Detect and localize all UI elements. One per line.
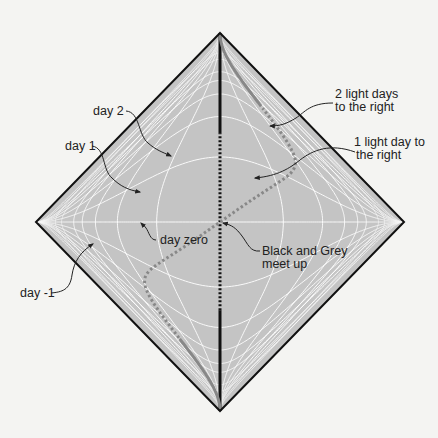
diagram-canvas: day 2 day 1 day zero day -1 2 light days…	[0, 0, 438, 438]
label-one-light-day-2: the right	[356, 148, 402, 162]
label-two-light-days-2: to the right	[335, 100, 395, 114]
label-two-light-days-1: 2 light days	[335, 87, 398, 101]
label-one-light-day-1: 1 light day to	[354, 135, 425, 149]
penrose-diagram: day 2 day 1 day zero day -1 2 light days…	[0, 0, 438, 438]
label-meet-up-1: Black and Grey	[262, 244, 348, 258]
label-day-zero: day zero	[160, 233, 208, 247]
label-day2: day 2	[93, 104, 124, 118]
label-day1: day 1	[65, 139, 96, 153]
label-meet-up-2: meet up	[262, 257, 307, 271]
label-day-minus1: day -1	[20, 286, 55, 300]
